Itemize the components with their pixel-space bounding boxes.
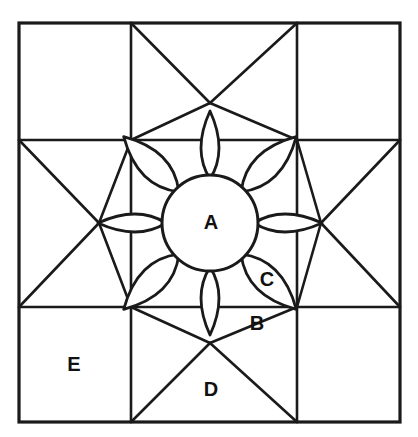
seam-corner-tl-h [99,140,131,223]
seam-top-right [210,23,297,103]
seam-corner-tr-h [297,140,321,223]
petal-upper-right [241,137,296,192]
petal-up [201,111,219,179]
patch-label-e: E [67,353,80,375]
patch-label-b: B [250,312,264,334]
seam-right-top [321,140,400,223]
quilt-block-diagram: ABCDE [0,0,418,437]
seam-bottom-left [131,343,210,422]
seam-left-top [19,140,99,223]
seam-left-bottom [19,223,99,307]
patch-label-d: D [204,378,218,400]
seam-top-left [131,23,210,103]
seam-corner-tr-v [210,103,297,140]
petal-right [254,214,322,232]
patch-label-c: C [260,268,274,290]
petal-left [98,214,166,232]
patch-label-a: A [204,211,218,233]
seam-corner-br-h [297,223,321,307]
seam-right-bottom [321,223,400,307]
petal-down [201,267,219,335]
seam-bottom-right [210,343,297,422]
seam-corner-tl-v [131,103,210,140]
seam-corner-bl-h [99,223,131,307]
seam-corner-bl-v [131,307,210,343]
quilt-block-svg: ABCDE [0,0,418,437]
